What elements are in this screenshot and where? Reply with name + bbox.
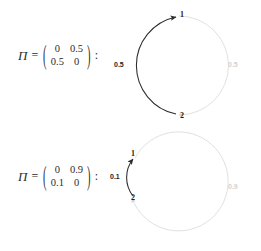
state-node-1-top: 1: [180, 11, 184, 19]
edge-2-to-1-arc: [127, 159, 133, 196]
state-diagram-2-svg: [0, 125, 261, 251]
edge-label-2-to-1: 0.5: [114, 61, 124, 68]
state-diagram-1-svg: [0, 0, 261, 126]
state-diagram-2: 1 2 0.1 0.9: [0, 125, 261, 251]
edge-label-2-to-1: 0.1: [110, 173, 120, 180]
edge-label-1-to-2: 0.9: [228, 183, 238, 190]
panel-row-2: Π = ( 0 0.9 0.1 0 ) :: [0, 125, 261, 251]
state-diagram-1: 1 2 0.5 0.5: [0, 0, 261, 126]
edge-1-to-2-arc: [179, 16, 228, 115]
edge-1-to-2-arc: [132, 132, 228, 231]
edge-2-to-1-arc: [136, 17, 176, 114]
state-node-2-upper: 1: [131, 150, 135, 158]
state-node-2-lower: 2: [131, 194, 135, 202]
figure-canvas: Π = ( 0 0.5 0.5 0 ) :: [0, 0, 261, 251]
edge-label-1-to-2: 0.5: [228, 61, 238, 68]
panel-row-1: Π = ( 0 0.5 0.5 0 ) :: [0, 0, 261, 125]
state-node-1-bottom: 2: [180, 112, 184, 120]
